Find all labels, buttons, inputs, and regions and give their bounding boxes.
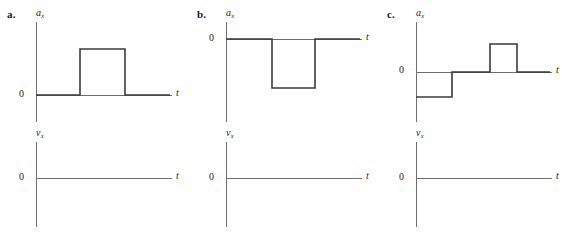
panel-c-accel-plot (380, 0, 578, 122)
panel-a-velocity-plot (0, 122, 190, 243)
panel-c-accel-curve (416, 44, 550, 97)
panel-a-accel-x-axis-label: t (176, 88, 179, 98)
panel-b-velocity-x-axis-label: t (366, 171, 369, 181)
panel-b-velocity-plot (190, 122, 380, 243)
panel-c-velocity-y-axis-label: vx (416, 128, 423, 138)
panel-a-velocity-origin-label: 0 (19, 172, 24, 182)
panel-c-velocity-plot (380, 122, 578, 243)
panel-b-velocity-graph: vx 0 t (190, 122, 380, 243)
panel-a-velocity-y-axis-label: vx (36, 128, 43, 138)
panel-c-velocity-x-axis-label: t (556, 171, 559, 181)
panel-c-velocity-graph: vx 0 t (380, 122, 570, 243)
panel-a-accel-origin-label: 0 (19, 89, 24, 99)
panel-b-accel-origin-label: 0 (209, 33, 214, 43)
panel-c-accel-origin-label: 0 (399, 65, 404, 75)
panel-a-acceleration-graph: a. ax 0 t (0, 0, 190, 122)
panel-c-accel-x-axis-label: t (556, 65, 559, 75)
panel-a-accel-curve (36, 49, 170, 95)
panel-c-letter: c. (387, 8, 395, 20)
panel-a-velocity-graph: vx 0 t (0, 122, 190, 243)
panel-a-accel-plot (0, 0, 190, 122)
panel-b-accel-curve (226, 39, 360, 88)
panel-b-accel-x-axis-label: t (366, 32, 369, 42)
panel-b-acceleration-graph: b. ax 0 t (190, 0, 380, 122)
panel-c-acceleration-graph: c. ax 0 t (380, 0, 570, 122)
panel-c-accel-y-axis-label: ax (416, 8, 424, 18)
panel-b-accel-y-axis-label: ax (226, 8, 234, 18)
panel-b-velocity-origin-label: 0 (209, 172, 214, 182)
panel-b-velocity-y-axis-label: vx (226, 128, 233, 138)
panel-b-letter: b. (197, 8, 206, 20)
panel-b: b. ax 0 t vx 0 t (190, 0, 380, 243)
panel-a-accel-y-axis-label: ax (36, 8, 44, 18)
physics-figure: a. ax 0 t vx 0 t (0, 0, 578, 243)
panel-c: c. ax 0 t vx 0 t (380, 0, 570, 243)
panel-c-velocity-origin-label: 0 (399, 172, 404, 182)
panel-a-letter: a. (7, 8, 16, 20)
panel-b-accel-plot (190, 0, 380, 122)
panel-a: a. ax 0 t vx 0 t (0, 0, 190, 243)
panel-a-velocity-x-axis-label: t (176, 171, 179, 181)
